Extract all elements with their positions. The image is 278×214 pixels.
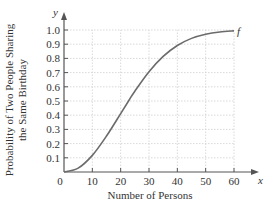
birthday-probability-chart: 01020304050600.10.20.30.40.50.60.70.80.9… — [0, 0, 278, 214]
y-tick-label: 0.7 — [46, 67, 60, 79]
x-tick-label: 60 — [229, 175, 241, 187]
y-tick-label: 0.1 — [46, 152, 60, 164]
y-axis-title-line-2: the Same Birthday — [16, 59, 28, 141]
y-tick-label: 0.5 — [46, 95, 60, 107]
y-tick-label: 0.6 — [46, 81, 60, 93]
y-axis-var-label: y — [52, 6, 58, 18]
x-axis-title: Number of Persons — [108, 189, 193, 201]
x-tick-label: 20 — [115, 175, 127, 187]
x-tick-label: 40 — [172, 175, 184, 187]
y-tick-label: 0.9 — [46, 38, 60, 50]
y-tick-label: 0.8 — [46, 52, 60, 64]
x-tick-label: 10 — [87, 175, 99, 187]
x-tick-label: 50 — [200, 175, 212, 187]
axes — [61, 12, 259, 175]
x-axis-var-label: x — [257, 174, 263, 186]
tick-labels: 01020304050600.10.20.30.40.50.60.70.80.9… — [46, 24, 240, 187]
y-axis-title-line-1: Probability of Two People Sharing — [3, 23, 15, 176]
grid-lines — [64, 30, 234, 172]
y-tick-label: 0.3 — [46, 123, 60, 135]
y-tick-label: 0.4 — [46, 109, 60, 121]
x-tick-label: 30 — [144, 175, 156, 187]
y-axis-arrow-icon — [61, 12, 67, 20]
y-tick-label: 0.2 — [46, 138, 60, 150]
y-tick-label: 1.0 — [46, 24, 60, 36]
x-tick-label: 0 — [57, 175, 63, 187]
series-label-f: f — [237, 25, 242, 37]
